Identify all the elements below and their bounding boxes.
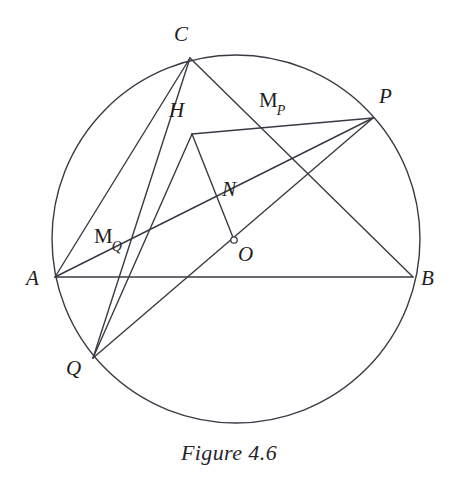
label-Q: Q [66,358,81,379]
label-P-text: P [379,84,392,108]
label-O: O [238,244,253,265]
geometry-canvas [0,0,458,483]
label-C: C [174,24,188,45]
label-MQ-text: M [94,224,113,248]
label-C-text: C [174,22,188,46]
label-Q-text: Q [66,356,81,380]
label-A-text: A [26,266,39,290]
label-N-text: N [222,177,236,201]
geometry-figure: CHMPPNMQOABQ Figure 4.6 [0,0,458,483]
label-P: P [379,86,392,107]
label-A: A [26,268,39,289]
center-point-O [231,237,237,243]
label-O-text: O [238,242,253,266]
label-B-text: B [421,266,434,290]
label-MQ-subscript: Q [112,239,122,254]
label-H-text: H [169,98,184,122]
label-B: B [421,268,434,289]
label-MP-text: M [259,88,278,112]
label-N: N [222,179,236,200]
label-H: H [169,100,184,121]
label-MP-subscript: P [277,103,286,118]
figure-caption: Figure 4.6 [0,440,458,466]
segment-A-P [55,118,373,277]
label-MP: MP [259,90,286,115]
label-MQ: MQ [94,226,123,251]
